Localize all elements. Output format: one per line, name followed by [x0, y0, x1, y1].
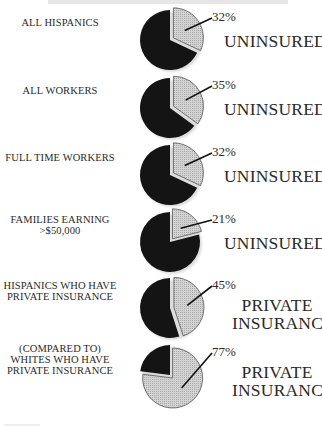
category-label-line: PRIVATE [232, 296, 322, 314]
percent-label: 32% [212, 9, 236, 25]
category-label: PRIVATEINSURANCE [232, 363, 322, 399]
category-label-line: INSURANCE [232, 381, 322, 399]
category-label-line: INSURANCE [232, 314, 322, 332]
percent-label: 32% [212, 144, 236, 160]
group-label: FAMILIES EARNING>$50,000 [0, 214, 130, 236]
group-label: ALL WORKERS [0, 85, 130, 96]
category-label-line: PRIVATE [232, 363, 322, 381]
group-label: FULL TIME WORKERS [0, 152, 130, 163]
percent-label: 35% [212, 77, 236, 93]
group-label: (COMPARED TO)WHITES WHO HAVEPRIVATE INSU… [0, 343, 130, 376]
category-label-line: UNINSURED [224, 167, 322, 185]
pie-row: HISPANICS WHO HAVEPRIVATE INSURANCE 45%P… [0, 272, 322, 340]
group-label-line: (COMPARED TO) [0, 343, 130, 354]
group-label-line: FULL TIME WORKERS [0, 152, 130, 163]
percent-label: 45% [212, 277, 236, 293]
group-label-line: FAMILIES EARNING [0, 214, 130, 225]
group-label-line: HISPANICS WHO HAVE [0, 280, 130, 291]
pie-row: FULL TIME WORKERS 32%UNINSURED [0, 139, 322, 207]
group-label-line: ALL HISPANICS [0, 17, 130, 28]
category-label-line: UNINSURED [224, 32, 322, 50]
category-label-line: UNINSURED [224, 100, 322, 118]
category-label: UNINSURED [224, 100, 322, 118]
bottom-mark [4, 424, 40, 426]
group-label-line: ALL WORKERS [0, 85, 130, 96]
category-label-line: UNINSURED [224, 234, 322, 252]
group-label-line: PRIVATE INSURANCE [0, 365, 130, 376]
group-label: ALL HISPANICS [0, 17, 130, 28]
pie-row: FAMILIES EARNING>$50,000 21%UNINSURED [0, 206, 322, 274]
pie-slice-remainder [140, 345, 170, 375]
category-label: UNINSURED [224, 167, 322, 185]
group-label-line: WHITES WHO HAVE [0, 354, 130, 365]
percent-label: 21% [212, 211, 236, 227]
group-label-line: PRIVATE INSURANCE [0, 291, 130, 302]
group-label-line: >$50,000 [0, 225, 130, 236]
group-label: HISPANICS WHO HAVEPRIVATE INSURANCE [0, 280, 130, 302]
pie-row: ALL WORKERS 35%UNINSURED [0, 72, 322, 140]
category-label: UNINSURED [224, 234, 322, 252]
percent-label: 77% [212, 344, 236, 360]
pie-row: (COMPARED TO)WHITES WHO HAVEPRIVATE INSU… [0, 339, 322, 407]
category-label: UNINSURED [224, 32, 322, 50]
category-label: PRIVATEINSURANCE [232, 296, 322, 332]
pie-row: ALL HISPANICS 32%UNINSURED [0, 4, 322, 72]
